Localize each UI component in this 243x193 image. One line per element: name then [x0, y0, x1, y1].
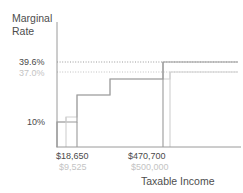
x-tick-label-18650: $18,650 — [56, 151, 89, 161]
series-new-law-brackets — [57, 72, 238, 147]
series-prior-law-brackets — [57, 62, 238, 147]
y-tick-label-10: 10% — [27, 117, 45, 127]
y-tick-label-37-0: 37.0% — [19, 68, 45, 78]
x-tick-label-9525: $9,525 — [59, 162, 87, 172]
x-tick-label-500000: $500,000 — [131, 162, 169, 172]
chart-container: Marginal Rate 39.6% 37.0% 10% $18,650 $9… — [0, 0, 243, 193]
x-tick-label-470700: $470,700 — [128, 151, 166, 161]
y-axis-title-line1: Marginal — [12, 12, 52, 25]
y-axis-title-line2: Rate — [12, 25, 52, 38]
y-tick-label-39-6: 39.6% — [19, 57, 45, 67]
y-axis-title: Marginal Rate — [12, 12, 52, 38]
x-axis-title: Taxable Income — [141, 175, 215, 187]
